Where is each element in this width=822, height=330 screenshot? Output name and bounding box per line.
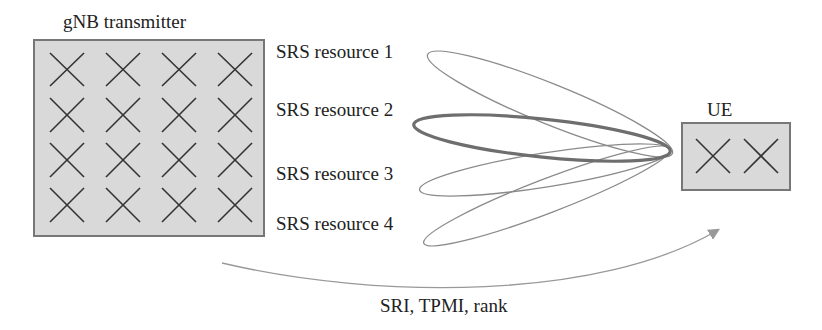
beam-label-1: SRS resource 1 <box>276 42 393 61</box>
gnb-title: gNB transmitter <box>63 12 186 31</box>
beam-label-4: SRS resource 4 <box>276 214 393 233</box>
ue-antenna-panel <box>682 123 790 190</box>
beam-label-2: SRS resource 2 <box>276 100 393 119</box>
beam-srs-resource-2 <box>412 106 673 171</box>
ue-title: UE <box>707 100 732 119</box>
gnb-antenna-panel <box>34 40 264 236</box>
feedback-label: SRI, TPMI, rank <box>380 296 507 315</box>
diagram-canvas <box>0 0 822 330</box>
srs-beams <box>412 36 680 259</box>
beam-label-3: SRS resource 3 <box>276 164 393 183</box>
